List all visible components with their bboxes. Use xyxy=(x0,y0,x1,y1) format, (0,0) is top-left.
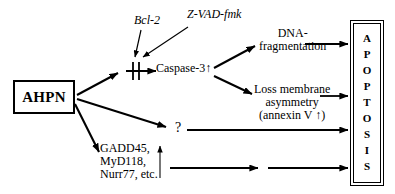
arrow-ahpn-to-genes xyxy=(75,104,99,152)
annexin-paren-close: ) xyxy=(321,108,325,122)
node-unknown-mediator: ? xyxy=(175,120,181,135)
arrow-bcl2-inhibits xyxy=(135,30,141,57)
arrow-ahpn-to-caspase3 xyxy=(77,73,118,95)
arrow-zvadfmk-inhibits xyxy=(143,27,188,57)
label-inhibitor-bcl2: Bcl-2 xyxy=(134,14,160,27)
node-dna-fragmentation-line2: fragmentation xyxy=(259,40,326,53)
node-dna-fragmentation: DNA- fragmentation xyxy=(259,27,326,53)
arrow-ahpn-to-unknown xyxy=(77,99,166,127)
apoptosis-letter-2: O xyxy=(363,63,372,79)
node-ahpn[interactable]: AHPN xyxy=(13,80,75,114)
node-apoptosis-inner: APOPTOSIS xyxy=(353,23,381,183)
node-induced-genes-line3: Nurr77, etc. xyxy=(100,168,158,181)
apoptosis-letter-4: T xyxy=(363,95,370,111)
apoptosis-letter-5: O xyxy=(363,111,372,127)
arrow-caspase3-to-dna xyxy=(214,46,255,68)
node-ahpn-label: AHPN xyxy=(22,89,66,106)
arrow-caspase3-to-membrane xyxy=(214,76,252,94)
node-induced-genes-line1: GADD45, xyxy=(100,142,158,155)
apoptosis-letter-1: P xyxy=(364,47,371,63)
node-dna-fragmentation-line1: DNA- xyxy=(259,27,326,40)
node-caspase3-label: Caspase-3 xyxy=(156,61,205,75)
node-membrane-asymmetry: Loss membrane asymmetry (annexin V ↑) xyxy=(254,83,330,122)
apoptosis-letter-7: I xyxy=(365,143,369,159)
node-induced-genes: GADD45, MyD118, Nurr77, etc. xyxy=(100,142,158,181)
apoptosis-letter-8: S xyxy=(364,159,370,175)
node-apoptosis[interactable]: APOPTOSIS xyxy=(350,20,384,186)
node-membrane-asymmetry-line3: (annexin V ↑) xyxy=(254,109,330,122)
up-arrow-icon: ↑ xyxy=(205,61,211,75)
node-induced-genes-line2: MyD118, xyxy=(100,155,158,168)
pathway-diagram: AHPN Bcl-2 Z-VAD-fmk Caspase-3↑ ? DNA- f… xyxy=(0,0,395,194)
node-membrane-asymmetry-line1: Loss membrane xyxy=(254,83,330,96)
node-caspase3: Caspase-3↑ xyxy=(156,62,211,75)
annexin-text: (annexin V xyxy=(259,108,312,122)
apoptosis-letter-6: S xyxy=(364,127,370,143)
label-inhibitor-z-vad-fmk: Z-VAD-fmk xyxy=(187,8,241,21)
apoptosis-letter-3: P xyxy=(364,79,371,95)
apoptosis-letter-0: A xyxy=(363,31,371,47)
